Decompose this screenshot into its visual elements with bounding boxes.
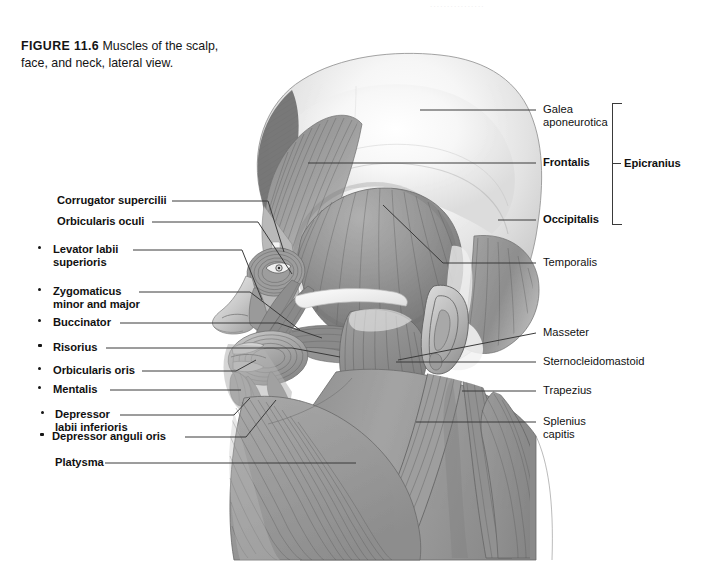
label-zygomaticus-line2: minor and major [53, 298, 140, 311]
label-risorius: Risorius [53, 341, 97, 354]
figure-page: ................ [0, 0, 710, 570]
label-temporalis: Temporalis [543, 256, 597, 269]
label-mentalis: Mentalis [53, 383, 97, 396]
figure-caption: FIGURE 11.6 Muscles of the scalp, face, … [21, 38, 236, 71]
epicranius-bracket-tick [612, 163, 621, 164]
label-platysma: Platysma [55, 456, 104, 469]
bullet-depressor-anguli-oris [40, 433, 44, 436]
bullet-risorius [38, 344, 42, 347]
label-epicranius: Epicranius [624, 157, 681, 170]
label-splenius-capitis-line2: capitis [543, 428, 575, 441]
figure-number: FIGURE 11.6 [21, 39, 99, 53]
label-zygomaticus: Zygomaticus [53, 285, 121, 298]
earlobe [429, 353, 442, 370]
label-orbicularis-oculi: Orbicularis oculi [57, 215, 144, 228]
label-sternocleidomastoid: Sternocleidomastoid [543, 355, 644, 368]
label-depressor-labii-inferioris: Depressor [55, 408, 110, 421]
label-trapezius: Trapezius [543, 384, 592, 397]
label-galea-aponeurotica: Galea [543, 103, 573, 116]
label-galea-aponeurotica-line2: aponeurotica [543, 116, 608, 129]
label-levator-labii-superioris: Levator labii [53, 243, 118, 256]
label-frontalis: Frontalis [543, 156, 590, 169]
label-occipitalis: Occipitalis [543, 213, 599, 226]
epicranius-bracket [612, 103, 622, 225]
label-masseter: Masseter [543, 326, 589, 339]
label-corrugator-supercilii: Corrugator supercilii [57, 194, 167, 207]
label-levator-labii-superioris-line2: superioris [53, 256, 107, 269]
label-orbicularis-oris: Orbicularis oris [53, 364, 135, 377]
label-splenius-capitis: Splenius [543, 415, 586, 428]
label-buccinator: Buccinator [53, 316, 111, 329]
label-depressor-anguli-oris: Depressor anguli oris [52, 430, 166, 443]
